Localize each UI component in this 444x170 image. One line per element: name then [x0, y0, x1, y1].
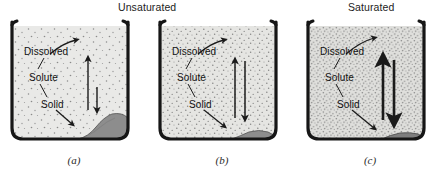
label-solid-b: Solid	[189, 99, 212, 110]
beaker-a-illustration	[0, 0, 148, 150]
label-solute-c: Solute	[325, 72, 354, 83]
beaker-c-illustration	[296, 0, 444, 150]
label-dissolved-b: Dissolved	[172, 46, 216, 57]
label-solid-c: Solid	[337, 99, 360, 110]
label-dissolved-a: Dissolved	[24, 46, 68, 57]
solubility-figure: Unsaturated Saturated	[0, 0, 444, 170]
label-solid-a: Solid	[41, 99, 64, 110]
panel-c: Dissolved Solute Solid (c)	[296, 0, 444, 170]
label-dissolved-c: Dissolved	[320, 46, 364, 57]
label-solute-a: Solute	[29, 72, 58, 83]
panel-a: Dissolved Solute Solid (a)	[0, 0, 148, 170]
panel-caption-b: (b)	[148, 154, 296, 166]
panel-caption-c: (c)	[296, 154, 444, 166]
panel-b: Dissolved Solute Solid (b)	[148, 0, 296, 170]
beaker-b-illustration	[148, 0, 296, 150]
panel-caption-a: (a)	[0, 154, 148, 166]
label-solute-b: Solute	[177, 72, 206, 83]
